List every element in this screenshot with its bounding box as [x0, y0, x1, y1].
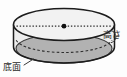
top-face-center-dot: [62, 24, 67, 29]
cylinder-figure: 底面 高さ: [0, 0, 127, 77]
base-face-label: 底面: [3, 62, 21, 72]
base-label-leader-line: [24, 59, 34, 65]
height-label: 高さ: [103, 30, 121, 40]
